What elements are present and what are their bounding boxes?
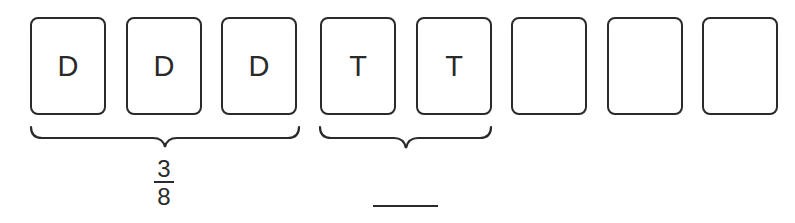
t-group-brace	[320, 127, 491, 148]
d-group-brace	[31, 127, 299, 147]
fraction-denominator: 8	[152, 185, 176, 208]
t-group-answer-blank[interactable]	[373, 205, 438, 207]
d-group-fraction: 3 8	[152, 157, 176, 208]
fraction-numerator: 3	[152, 157, 176, 180]
braces-layer	[0, 0, 795, 223]
